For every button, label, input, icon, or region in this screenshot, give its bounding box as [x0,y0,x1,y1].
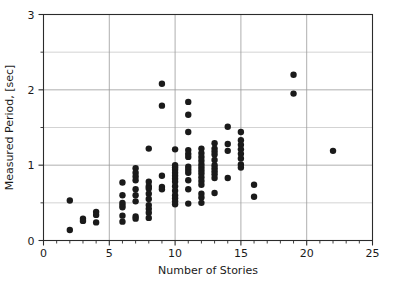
x-tick-label: 10 [168,247,182,260]
data-point [225,175,231,181]
x-tick-label: 5 [106,247,113,260]
y-axis-title: Measured Period, [sec] [3,65,16,191]
data-point [119,212,125,218]
data-point [290,90,296,96]
data-point [132,186,138,192]
x-tick-label: 20 [300,247,314,260]
data-point [198,200,204,206]
data-point [119,192,125,198]
data-point [132,198,138,204]
data-point [225,141,231,147]
data-point [146,215,152,221]
data-point [67,227,73,233]
chart-canvas: 0510152025 0123 Number of Stories Measur… [0,0,397,281]
data-point [146,196,152,202]
data-point [67,197,73,203]
data-point [185,154,191,160]
data-point [132,215,138,221]
data-point [185,177,191,183]
data-point [185,111,191,117]
data-point [80,218,86,224]
y-tick-label: 0 [28,235,35,248]
data-point [119,204,125,210]
data-point [93,219,99,225]
data-point [93,212,99,218]
data-point [185,200,191,206]
x-tick-label: 25 [366,247,380,260]
data-point [132,192,138,198]
data-point [172,201,178,207]
data-point [225,148,231,154]
data-point [330,148,336,154]
x-tick-label: 15 [234,247,248,260]
data-point [185,99,191,105]
x-axis-title: Number of Stories [158,264,258,277]
data-point [185,129,191,135]
data-point [132,177,138,183]
y-tick-label: 3 [28,9,35,22]
data-point [172,146,178,152]
y-tick-label: 2 [28,84,35,97]
data-point [146,145,152,151]
data-point [159,173,165,179]
scatter-plot-figure: 0510152025 0123 Number of Stories Measur… [0,0,397,281]
data-point [119,179,125,185]
data-point [251,182,257,188]
data-point [251,194,257,200]
data-point [159,186,165,192]
data-point [238,164,244,170]
data-point [290,72,296,78]
data-point [225,124,231,130]
data-point [211,190,217,196]
data-point [185,170,191,176]
data-point [211,175,217,181]
data-point [198,182,204,188]
data-point [119,218,125,224]
y-tick-label: 1 [28,159,35,172]
data-point [185,186,191,192]
data-point [238,129,244,135]
data-point [238,155,244,161]
x-tick-label: 0 [40,247,47,260]
data-point [159,102,165,108]
data-point [159,81,165,87]
